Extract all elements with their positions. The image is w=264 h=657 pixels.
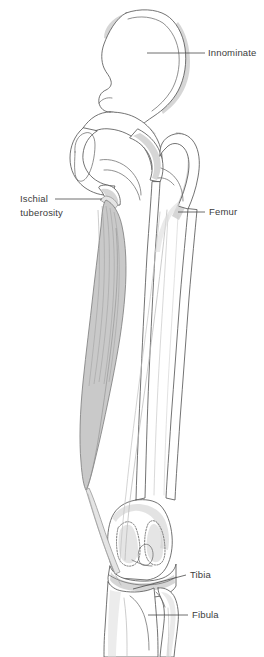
fibula-bone-group <box>156 588 178 657</box>
hamstring-muscle-belly <box>80 200 126 490</box>
label-femur: Femur <box>209 206 237 217</box>
intertrochanteric-line <box>161 168 183 201</box>
anatomy-figure: Innominate Ischial tuberosity Femur Tibi… <box>0 0 264 657</box>
label-innominate: Innominate <box>208 47 257 58</box>
femur-bone-group <box>108 132 200 580</box>
label-tibia: Tibia <box>190 569 212 580</box>
label-fibula: Fibula <box>192 609 219 620</box>
femoral-head-outline <box>160 134 199 209</box>
innominate-bone-group <box>70 10 190 206</box>
femur-shaft-lateral-border <box>166 209 197 500</box>
femur-shaft-medial-border <box>136 182 160 500</box>
label-ischial-tuberosity-line1: Ischial <box>20 193 48 204</box>
tibia-bone-group <box>104 582 158 657</box>
ilium-outline <box>99 10 186 129</box>
label-ischial-tuberosity-line2: tuberosity <box>20 207 63 218</box>
linea-aspera <box>154 215 168 495</box>
anatomy-illustration: Innominate Ischial tuberosity Femur Tibi… <box>0 0 264 657</box>
